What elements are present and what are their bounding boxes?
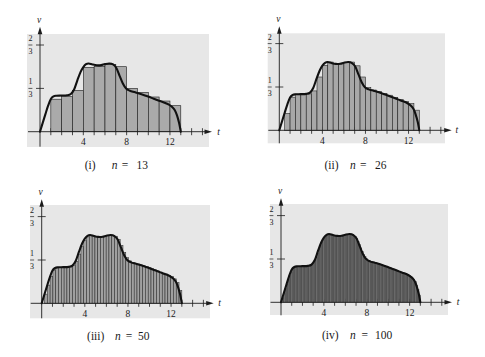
y-tick-numerator: 2 (269, 205, 273, 214)
riemann-bar (372, 262, 373, 302)
riemann-bar (159, 272, 162, 303)
riemann-bar (358, 241, 359, 302)
riemann-bar (127, 88, 138, 131)
riemann-bar (168, 275, 171, 303)
riemann-bar (344, 235, 345, 302)
x-tick-label: 12 (166, 309, 176, 319)
y-tick-numerator: 2 (268, 33, 272, 42)
y-tick-numerator: 2 (28, 34, 32, 43)
riemann-bar (387, 267, 388, 303)
y-axis-label: v (39, 187, 44, 197)
riemann-bar (392, 97, 397, 130)
riemann-bar (145, 267, 148, 304)
riemann-bar (64, 267, 67, 303)
riemann-bar (333, 64, 338, 131)
riemann-bar (89, 235, 92, 303)
riemann-bar (411, 277, 412, 303)
riemann-bar (288, 280, 289, 303)
caption-value: 26 (375, 159, 387, 171)
riemann-bar (171, 277, 174, 304)
riemann-bar (294, 268, 295, 303)
riemann-bar (140, 265, 143, 303)
riemann-bar (366, 259, 367, 302)
caption-variable: n (115, 330, 121, 342)
riemann-bar (322, 65, 327, 130)
riemann-bar (401, 272, 402, 302)
y-axis-arrowhead (279, 198, 284, 206)
riemann-bar (314, 261, 315, 303)
riemann-bar (117, 239, 120, 303)
x-tick-label: 12 (165, 137, 175, 147)
riemann-bar (398, 99, 403, 130)
x-axis-label: t (217, 127, 220, 137)
x-tick-label: 8 (363, 136, 368, 146)
caption-equals: = (122, 159, 129, 171)
riemann-bar (70, 267, 73, 304)
riemann-bar (305, 266, 306, 302)
riemann-bar (348, 234, 349, 302)
riemann-bar (137, 264, 140, 303)
y-tick-denominator: 3 (269, 218, 273, 227)
x-tick-label: 12 (404, 136, 414, 146)
riemann-bar (301, 94, 306, 130)
x-tick-label: 8 (124, 137, 129, 147)
riemann-bar (412, 278, 413, 302)
caption-roman: (i) (85, 159, 96, 172)
riemann-bar (342, 236, 343, 303)
riemann-bar (302, 266, 303, 302)
riemann-bar (162, 273, 165, 303)
riemann-bar (340, 236, 341, 303)
riemann-bar (321, 242, 322, 302)
riemann-bar (83, 67, 94, 131)
riemann-bar (390, 268, 391, 303)
riemann-bar (365, 88, 370, 131)
y-tick-denominator: 3 (269, 261, 273, 270)
riemann-bar (403, 101, 408, 130)
riemann-bar (306, 94, 311, 130)
riemann-bar (105, 64, 116, 131)
riemann-bar (382, 93, 387, 130)
riemann-bar (359, 245, 360, 303)
riemann-bar (397, 270, 398, 302)
y-axis-arrowhead (38, 27, 43, 35)
riemann-bar (81, 247, 84, 304)
chart-panel-iii: 2 3 1 3 v t 4 8 12 (30, 187, 221, 318)
riemann-bar (67, 267, 70, 303)
riemann-bar (73, 265, 76, 303)
caption-variable: n (112, 159, 118, 171)
riemann-bar (62, 97, 73, 132)
riemann-bar (298, 266, 299, 302)
x-axis-arrowhead (445, 300, 453, 305)
y-tick-numerator: 1 (268, 76, 272, 85)
caption-value: 50 (138, 330, 150, 342)
riemann-bar (367, 260, 368, 302)
caption-roman: (iii) (87, 330, 104, 343)
y-tick-denominator: 3 (28, 47, 32, 56)
riemann-bar (380, 264, 381, 302)
riemann-bar (47, 285, 50, 303)
riemann-bar (98, 237, 101, 304)
riemann-bar (330, 234, 331, 302)
x-axis-label: t (457, 297, 460, 307)
riemann-bar (123, 252, 126, 303)
riemann-bar (131, 262, 134, 303)
riemann-bar (347, 235, 348, 303)
x-axis-label: t (455, 125, 458, 135)
riemann-bar (349, 62, 354, 130)
riemann-bar (399, 272, 400, 303)
y-tick-denominator: 3 (268, 46, 272, 55)
riemann-bar (363, 255, 364, 303)
riemann-bar (349, 234, 350, 302)
riemann-bar (120, 246, 123, 304)
caption-ii: (ii) n = 26 (324, 159, 386, 172)
riemann-bar (301, 266, 302, 302)
x-tick-label: 4 (320, 136, 325, 146)
riemann-bar (50, 276, 53, 303)
riemann-bar (370, 261, 371, 302)
riemann-bar (345, 235, 346, 303)
riemann-bar (328, 62, 333, 130)
riemann-bar (402, 273, 403, 303)
riemann-bar (154, 270, 157, 303)
riemann-bar (404, 273, 405, 302)
riemann-bar (316, 257, 317, 302)
